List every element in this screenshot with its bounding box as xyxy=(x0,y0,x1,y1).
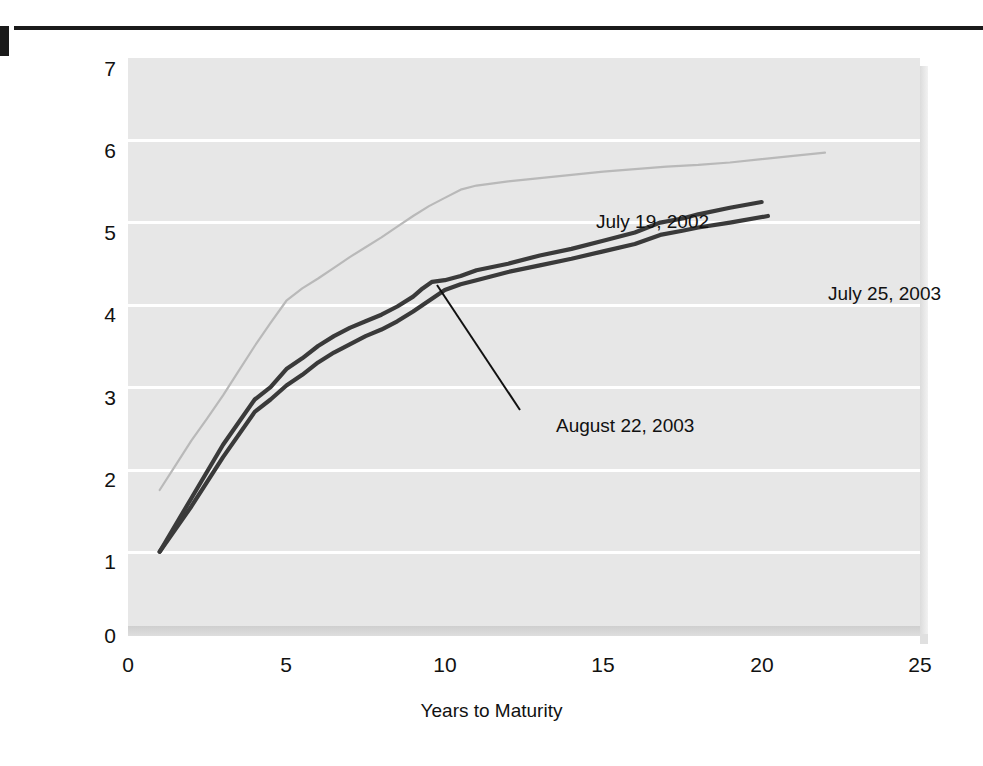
y-tick-2: 2 xyxy=(82,469,116,490)
chart-page: 7 6 5 4 3 2 1 0 Percent July 19, 2002 Ju… xyxy=(0,0,983,766)
top-horizontal-rule xyxy=(14,26,983,30)
series-line-august-22-2003 xyxy=(160,202,762,552)
plot-area: July 19, 2002 July 25, 2003 August 22, 2… xyxy=(128,58,928,644)
x-axis-ticks: 0 5 10 15 20 25 xyxy=(128,654,928,682)
series-plot xyxy=(128,58,920,634)
left-corner-mark xyxy=(0,26,9,56)
series-line-july-25-2003 xyxy=(160,216,768,552)
y-tick-6: 6 xyxy=(82,140,116,161)
x-tick-25: 25 xyxy=(900,654,940,675)
series-label-july-19-2002: July 19, 2002 xyxy=(596,211,709,233)
y-tick-5: 5 xyxy=(82,222,116,243)
y-tick-1: 1 xyxy=(82,551,116,572)
y-axis-label: Percent xyxy=(0,265,4,330)
y-axis-ticks: 7 6 5 4 3 2 1 0 xyxy=(80,58,116,644)
y-tick-4: 4 xyxy=(82,304,116,325)
x-tick-5: 5 xyxy=(266,654,306,675)
series-line-july-19-2002 xyxy=(160,153,825,490)
x-axis-label: Years to Maturity xyxy=(0,700,983,722)
plot-side-bevel xyxy=(920,66,928,642)
y-tick-0: 0 xyxy=(82,625,116,646)
y-tick-3: 3 xyxy=(82,387,116,408)
annotation-leader-line xyxy=(437,285,520,410)
series-label-august-22-2003: August 22, 2003 xyxy=(556,415,694,437)
y-tick-7: 7 xyxy=(82,58,116,79)
x-tick-20: 20 xyxy=(742,654,782,675)
series-label-july-25-2003: July 25, 2003 xyxy=(828,283,941,305)
plot-base-corner xyxy=(920,634,928,644)
x-tick-10: 10 xyxy=(425,654,465,675)
x-tick-15: 15 xyxy=(583,654,623,675)
x-tick-0: 0 xyxy=(108,654,148,675)
